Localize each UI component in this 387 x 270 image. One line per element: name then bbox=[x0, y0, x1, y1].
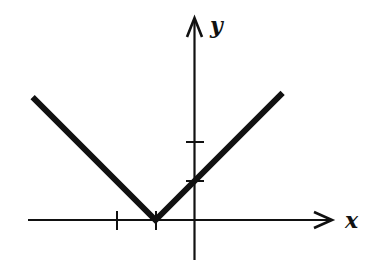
x-axis-label: x bbox=[345, 209, 358, 231]
function-graph-line bbox=[33, 93, 283, 220]
graph-figure: x y bbox=[0, 0, 387, 270]
graph-canvas bbox=[0, 0, 387, 270]
y-axis-label: y bbox=[210, 14, 223, 36]
